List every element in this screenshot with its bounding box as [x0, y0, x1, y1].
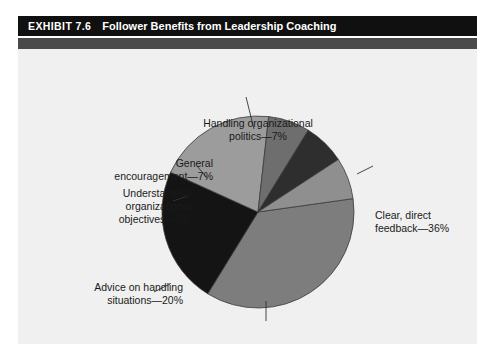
slice-label-advice-on-handling-situations: Advice on handling situations—20%: [58, 281, 183, 307]
exhibit-header-bar: EXHIBIT 7.6 Follower Benefits from Leade…: [18, 16, 477, 36]
header-accent-band: [18, 38, 477, 49]
slice-label-understanding-organizational-objectives: Understanding organizational objectives—…: [66, 187, 191, 226]
slice-label-handling-organizational-politics: Handling organizational politics—7%: [183, 117, 333, 143]
chart-panel: Handling organizational politics—7% Gene…: [18, 49, 477, 344]
exhibit-figure: EXHIBIT 7.6 Follower Benefits from Leade…: [0, 0, 500, 361]
exhibit-title: Follower Benefits from Leadership Coachi…: [102, 20, 336, 32]
exhibit-number: EXHIBIT 7.6: [28, 20, 91, 32]
slice-label-general-encouragement: General encouragement—7%: [98, 157, 213, 183]
slice-label-clear-direct-feedback: Clear, direct feedback—36%: [375, 209, 495, 235]
